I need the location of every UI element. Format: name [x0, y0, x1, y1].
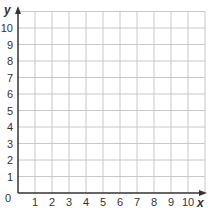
y-tick-label: 9: [7, 39, 13, 51]
x-tick-label: 3: [66, 196, 72, 208]
grid-lines: [18, 12, 205, 194]
y-tick-label: 2: [7, 154, 13, 166]
y-tick-label: 8: [7, 55, 13, 67]
x-tick-labels: 12345678910: [32, 196, 194, 208]
y-tick-label: 10: [1, 22, 13, 34]
x-tick-label: 9: [168, 196, 174, 208]
x-tick-label: 10: [182, 196, 194, 208]
x-tick-label: 7: [134, 196, 140, 208]
x-tick-label: 5: [100, 196, 106, 208]
y-tick-label: 7: [7, 72, 13, 84]
y-axis-label: y: [3, 3, 12, 17]
x-axis-label: x: [196, 196, 205, 208]
coordinate-grid: 12345678910 12345678910 0 x y: [0, 0, 208, 208]
x-tick-label: 8: [151, 196, 157, 208]
y-tick-label: 1: [7, 171, 13, 183]
x-tick-label: 1: [32, 196, 38, 208]
y-tick-label: 4: [7, 121, 13, 133]
x-tick-label: 4: [83, 196, 89, 208]
y-tick-label: 6: [7, 88, 13, 100]
y-axis-arrow-icon: [15, 6, 21, 14]
y-tick-label: 5: [7, 105, 13, 117]
y-tick-label: 3: [7, 138, 13, 150]
axes: [15, 6, 207, 196]
x-tick-label: 2: [49, 196, 55, 208]
y-tick-labels: 12345678910: [1, 22, 13, 183]
x-tick-label: 6: [117, 196, 123, 208]
origin-label: 0: [5, 192, 11, 204]
